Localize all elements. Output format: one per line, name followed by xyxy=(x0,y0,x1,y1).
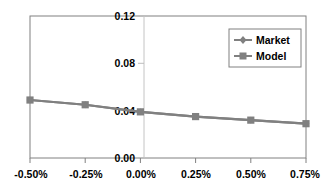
x-tick-label-3: 0.25% xyxy=(181,168,211,180)
legend-label-market: Market xyxy=(256,34,290,46)
square-marker-icon xyxy=(302,120,309,127)
y-tick-label-0: 0.00 xyxy=(115,152,136,164)
y-tick-label-3: 0.12 xyxy=(115,10,136,22)
x-tick-label-4: 0.50% xyxy=(236,168,266,180)
x-tick-label-2: 0.00% xyxy=(126,168,156,180)
square-marker-icon xyxy=(240,53,247,60)
line-chart: 0.00 0.04 0.08 0.12 -0.50% -0.25% 0.00% … xyxy=(0,0,331,186)
square-marker-icon xyxy=(192,113,199,120)
legend: Market Model xyxy=(229,29,301,67)
x-axis-ticks xyxy=(30,158,306,163)
square-marker-icon xyxy=(26,96,33,103)
x-tick-label-1: -0.25% xyxy=(69,168,103,180)
square-marker-icon xyxy=(247,117,254,124)
chart-container: 0.00 0.04 0.08 0.12 -0.50% -0.25% 0.00% … xyxy=(0,0,331,186)
y-tick-label-2: 0.08 xyxy=(115,57,136,69)
x-tick-label-5: 0.75% xyxy=(290,168,320,180)
square-marker-icon xyxy=(137,108,144,115)
x-tick-label-0: -0.50% xyxy=(14,168,48,180)
square-marker-icon xyxy=(82,101,89,108)
legend-label-model: Model xyxy=(256,50,286,62)
